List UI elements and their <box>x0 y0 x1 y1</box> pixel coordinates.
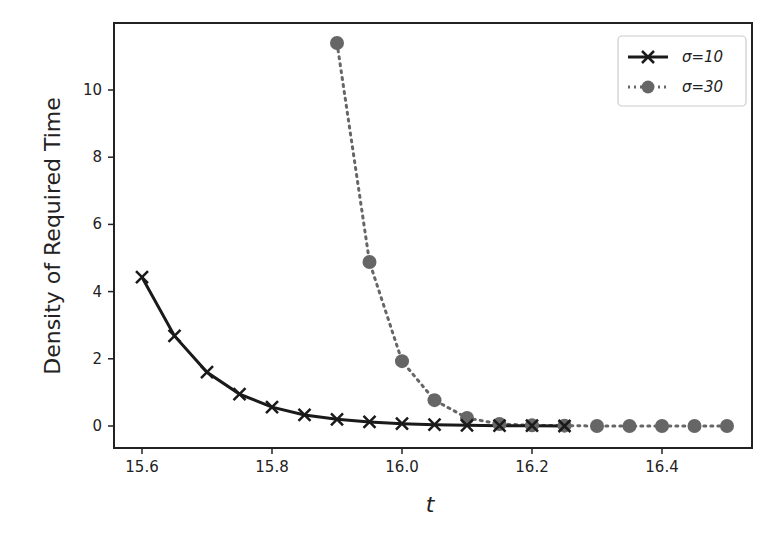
data-point <box>363 255 377 269</box>
data-point <box>330 36 344 50</box>
y-tick-label: 6 <box>92 215 102 233</box>
y-tick-label: 2 <box>92 350 102 368</box>
y-axis-ticks: 0246810 <box>83 81 114 435</box>
x-axis-label: t <box>426 492 436 517</box>
circle-marker-icon <box>642 81 655 94</box>
data-point <box>720 419 734 433</box>
legend-label: σ=10 <box>682 48 723 66</box>
y-tick-label: 0 <box>92 417 102 435</box>
data-point <box>688 419 702 433</box>
x-tick-label: 16.4 <box>645 458 678 476</box>
y-tick-label: 8 <box>92 148 102 166</box>
legend-label: σ=30 <box>682 78 723 96</box>
y-tick-label: 10 <box>83 81 102 99</box>
x-tick-label: 16.0 <box>385 458 418 476</box>
data-point <box>655 419 669 433</box>
data-point <box>590 419 604 433</box>
x-axis-ticks: 15.615.816.016.216.4 <box>125 448 678 476</box>
x-tick-label: 15.6 <box>125 458 158 476</box>
data-point <box>460 411 474 425</box>
data-point <box>623 419 637 433</box>
y-tick-label: 4 <box>92 283 102 301</box>
y-axis-label: Density of Required Time <box>40 97 65 375</box>
data-point <box>428 393 442 407</box>
x-tick-label: 15.8 <box>255 458 288 476</box>
x-tick-label: 16.2 <box>515 458 548 476</box>
data-point <box>395 354 409 368</box>
chart: 15.615.816.016.216.4 0246810 t Density o… <box>0 0 783 542</box>
legend: σ=10 σ=30 <box>618 36 746 106</box>
